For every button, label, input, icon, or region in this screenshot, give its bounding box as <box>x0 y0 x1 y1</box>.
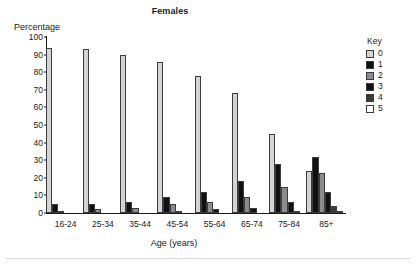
legend-swatch-icon <box>366 105 374 113</box>
bar-group: 45-54 <box>159 37 196 213</box>
legend-item-label: 5 <box>378 104 383 113</box>
legend-item-label: 0 <box>378 49 383 58</box>
x-axis-tick-label: 25-34 <box>92 219 114 229</box>
x-axis-label: Age (years) <box>40 238 308 248</box>
legend-item-label: 1 <box>378 60 383 69</box>
bar-group: 55-64 <box>196 37 233 213</box>
legend-item-4[interactable]: 4 <box>366 93 383 102</box>
y-axis-tick-label: 90 <box>34 50 43 59</box>
legend-swatch-icon <box>366 94 374 102</box>
y-axis-tick-label: 100 <box>29 33 43 42</box>
bar-series-2 <box>58 211 64 213</box>
bar-group: 35-44 <box>122 37 159 213</box>
legend-item-label: 2 <box>378 71 383 80</box>
legend-swatch-icon <box>366 50 374 58</box>
y-axis-tick-label: 40 <box>34 138 43 147</box>
bar-series-0 <box>120 55 126 213</box>
y-axis-tick-label: 70 <box>34 86 43 95</box>
legend-swatch-icon <box>366 61 374 69</box>
y-axis-tick-label: 80 <box>34 68 43 77</box>
legend-title: Key <box>367 36 383 46</box>
legend-item-0[interactable]: 0 <box>366 49 383 58</box>
x-axis-tick-label: 75-84 <box>278 219 300 229</box>
bar-series-0 <box>157 62 163 213</box>
x-axis-tick-label: 65-74 <box>241 219 263 229</box>
plot-area: 010203040506070809010016-2425-3435-4445-… <box>47 37 345 213</box>
y-axis-label: Percentage <box>14 22 60 32</box>
legend-item-1[interactable]: 1 <box>366 60 383 69</box>
y-axis-tick-label: 30 <box>34 156 43 165</box>
legend-item-label: 3 <box>378 82 383 91</box>
x-axis-tick-label: 35-44 <box>129 219 151 229</box>
bar-series-5 <box>337 211 343 213</box>
bar-series-2 <box>132 208 138 213</box>
y-axis-tick-label: 10 <box>34 191 43 200</box>
bar-series-3 <box>176 211 182 213</box>
bar-group: 65-74 <box>233 37 270 213</box>
y-axis-tick-label: 0 <box>38 209 43 218</box>
x-axis-tick-label: 55-64 <box>204 219 226 229</box>
bar-series-3 <box>213 209 219 213</box>
legend: Key 012345 <box>366 36 383 115</box>
page-divider <box>6 258 410 259</box>
bar-series-0 <box>46 48 52 213</box>
legend-item-2[interactable]: 2 <box>366 71 383 80</box>
bar-group: 85+ <box>308 37 345 213</box>
x-axis-line <box>46 213 346 214</box>
y-axis-tick-label: 20 <box>34 174 43 183</box>
x-axis-tick-label: 45-54 <box>167 219 189 229</box>
legend-item-label: 4 <box>378 93 383 102</box>
chart-title: Females <box>0 6 340 16</box>
legend-item-3[interactable]: 3 <box>366 82 383 91</box>
bar-group: 16-24 <box>47 37 84 213</box>
bar-series-0 <box>83 49 89 213</box>
legend-item-5[interactable]: 5 <box>366 104 383 113</box>
chart-figure: Females Percentage 010203040506070809010… <box>0 0 416 265</box>
y-axis-tick-label: 60 <box>34 103 43 112</box>
bar-series-3 <box>250 208 256 213</box>
bar-group: 75-84 <box>271 37 308 213</box>
x-axis-tick-label: 16-24 <box>55 219 77 229</box>
bar-group: 25-34 <box>84 37 121 213</box>
y-axis-tick-label: 50 <box>34 121 43 130</box>
legend-swatch-icon <box>366 83 374 91</box>
bar-series-4 <box>294 211 300 213</box>
x-axis-tick-label: 85+ <box>319 219 333 229</box>
bar-series-2 <box>95 209 101 213</box>
legend-swatch-icon <box>366 72 374 80</box>
